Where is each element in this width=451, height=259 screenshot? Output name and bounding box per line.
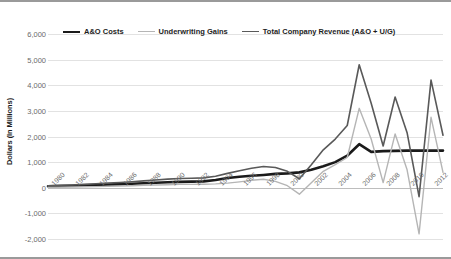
gridline <box>48 239 443 240</box>
y-axis-tick-labels: 6,0005,0004,0003,0002,0001,0000-1,000-2,… <box>0 34 46 239</box>
y-tick-label: 5,000 <box>2 55 46 64</box>
legend-entry-ao-costs: A&O Costs <box>63 27 124 36</box>
legend-swatch-icon <box>242 31 259 32</box>
legend-swatch-icon <box>138 31 155 32</box>
y-tick-label: 3,000 <box>2 106 46 115</box>
y-tick-label: -1,000 <box>2 209 46 218</box>
legend-label: Total Company Revenue (A&O + U/G) <box>263 27 396 36</box>
x-axis-tick-labels: 1980198219841986198819901992199419961998… <box>48 182 448 222</box>
y-tick-label: 2,000 <box>2 132 46 141</box>
legend-label: A&O Costs <box>84 27 124 36</box>
chart-legend: A&O Costs Underwriting Gains Total Compa… <box>63 27 395 36</box>
y-tick-label: 4,000 <box>2 81 46 90</box>
legend-entry-total-company-revenue: Total Company Revenue (A&O + U/G) <box>242 27 396 36</box>
y-tick-label: 0 <box>2 183 46 192</box>
legend-swatch-icon <box>63 31 80 33</box>
chart-figure: Dollars (In Millions) 6,0005,0004,0003,0… <box>0 0 451 259</box>
y-tick-label: 1,000 <box>2 158 46 167</box>
legend-entry-underwriting-gains: Underwriting Gains <box>138 27 228 36</box>
y-tick-label: 6,000 <box>2 30 46 39</box>
y-tick-label: -2,000 <box>2 235 46 244</box>
legend-label: Underwriting Gains <box>159 27 228 36</box>
